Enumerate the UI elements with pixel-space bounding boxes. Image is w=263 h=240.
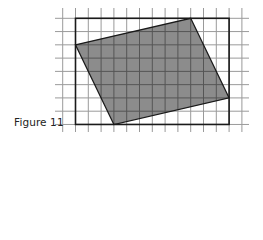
figure-caption: Figure 11 [14,116,64,128]
